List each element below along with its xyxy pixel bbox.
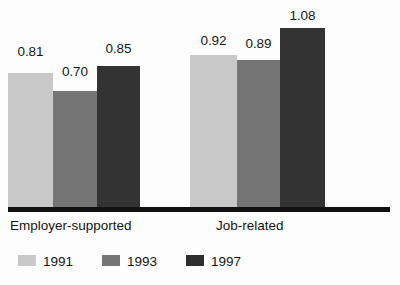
bar-chart: 0.81 0.70 0.85 0.92 0.89 1.08 Employer-s… [0, 0, 400, 285]
bar-1997-employer-supported [97, 66, 140, 207]
category-label-job-related: Job-related [216, 218, 284, 233]
bar-value-1991-job-related: 0.92 [190, 33, 237, 48]
plot-area: 0.81 0.70 0.85 0.92 0.89 1.08 [0, 0, 400, 212]
category-label-employer-supported: Employer-supported [10, 218, 132, 233]
bar-1993-employer-supported [53, 91, 97, 207]
bar-1991-job-related [190, 55, 237, 207]
legend-item-1997: 1997 [186, 252, 241, 272]
legend-swatch-1993-icon [102, 255, 120, 266]
legend-label-1993: 1993 [127, 254, 157, 269]
bar-value-1991-employer-supported: 0.81 [8, 44, 53, 59]
legend-swatch-1997-icon [186, 255, 204, 266]
bar-1993-job-related [237, 60, 280, 207]
bar-value-1993-job-related: 0.89 [237, 36, 280, 51]
legend-item-1991: 1991 [18, 252, 73, 272]
bar-1991-employer-supported [8, 73, 53, 207]
legend-swatch-1991-icon [18, 255, 36, 266]
bar-value-1997-employer-supported: 0.85 [97, 41, 140, 56]
bar-value-1993-employer-supported: 0.70 [53, 64, 97, 79]
legend-item-1993: 1993 [102, 252, 157, 272]
bar-1997-job-related [280, 28, 325, 207]
bar-value-1997-job-related: 1.08 [280, 8, 325, 23]
x-axis-line [8, 207, 390, 212]
legend-label-1997: 1997 [211, 254, 241, 269]
legend-label-1991: 1991 [43, 254, 73, 269]
